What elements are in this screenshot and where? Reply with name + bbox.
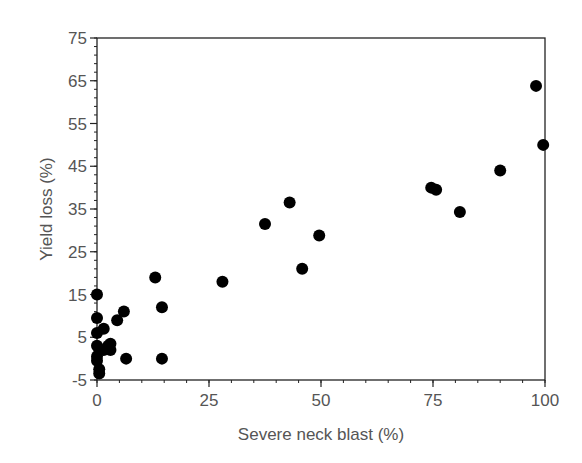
x-tick-label: 75 — [424, 391, 443, 410]
data-point — [120, 353, 132, 365]
x-tick-label: 100 — [531, 391, 559, 410]
x-tick-label: 25 — [200, 391, 219, 410]
data-point — [98, 323, 110, 335]
x-tick-label: 0 — [92, 391, 101, 410]
data-point — [149, 271, 161, 283]
y-tick-label: 55 — [68, 115, 87, 134]
data-point — [118, 306, 130, 318]
data-point — [537, 139, 549, 151]
plot-frame — [97, 38, 545, 380]
data-point — [216, 276, 228, 288]
data-point — [454, 206, 466, 218]
data-point — [93, 368, 105, 380]
y-tick-label: -5 — [72, 371, 87, 390]
data-point — [530, 80, 542, 92]
data-point — [313, 230, 325, 242]
data-point — [156, 353, 168, 365]
x-axis-ticks: 0255075100 — [92, 380, 559, 410]
data-point — [494, 165, 506, 177]
data-point — [259, 218, 271, 230]
y-tick-label: 75 — [68, 29, 87, 48]
y-tick-label: 45 — [68, 157, 87, 176]
scatter-chart: -5515253545556575 0255075100 Severe neck… — [0, 0, 582, 463]
y-tick-label: 15 — [68, 286, 87, 305]
data-point — [156, 301, 168, 313]
y-tick-label: 5 — [78, 328, 87, 347]
y-tick-label: 35 — [68, 200, 87, 219]
data-point — [91, 289, 103, 301]
y-tick-label: 25 — [68, 243, 87, 262]
plot-border — [97, 38, 545, 380]
data-point — [91, 312, 103, 324]
data-point — [104, 344, 116, 356]
x-tick-label: 50 — [312, 391, 331, 410]
x-axis-title: Severe neck blast (%) — [238, 425, 404, 444]
data-point — [430, 184, 442, 196]
y-axis-title: Yield loss (%) — [37, 157, 56, 260]
data-point — [296, 263, 308, 275]
data-point — [284, 197, 296, 209]
y-tick-label: 65 — [68, 72, 87, 91]
data-points — [91, 80, 549, 380]
